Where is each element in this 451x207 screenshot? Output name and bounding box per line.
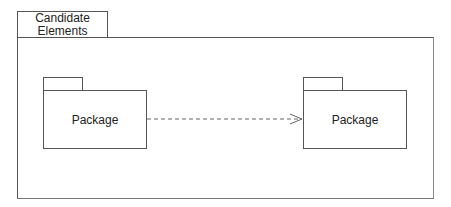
package-right[interactable]: Package [303, 90, 407, 149]
package-right-label: Package [332, 113, 379, 127]
frame-label-tab: Candidate Elements [17, 11, 108, 38]
package-left-tab [43, 77, 83, 91]
package-right-tab [303, 77, 343, 91]
package-left[interactable]: Package [43, 90, 147, 149]
package-left-label: Package [72, 113, 119, 127]
